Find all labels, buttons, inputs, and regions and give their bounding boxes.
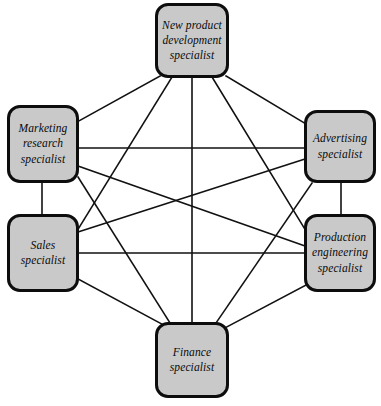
node-label: Production engineering specialist — [307, 230, 373, 276]
node-label: Advertising specialist — [307, 131, 373, 161]
edge-sales-to-finance — [78, 279, 171, 329]
node-label: Finance specialist — [158, 345, 226, 375]
node-production-engineering[interactable]: Production engineering specialist — [304, 214, 376, 292]
node-new-product-development[interactable]: New product development specialist — [155, 3, 229, 78]
edge-marketing-research-to-finance — [78, 177, 170, 323]
node-sales[interactable]: Sales specialist — [7, 214, 79, 292]
node-marketing-research[interactable]: Marketing research specialist — [7, 105, 79, 183]
edge-new-product-development-to-marketing-research — [77, 76, 160, 122]
edge-new-product-development-to-advertising — [226, 76, 306, 124]
node-label: Sales specialist — [10, 238, 76, 268]
node-finance[interactable]: Finance specialist — [155, 322, 229, 398]
node-advertising[interactable]: Advertising specialist — [304, 110, 376, 183]
edge-production-engineering-to-finance — [221, 285, 306, 330]
edge-new-product-development-to-production-engineering — [212, 77, 306, 231]
node-label: New product development specialist — [158, 18, 226, 64]
network-diagram: New product development specialist Marke… — [0, 0, 381, 406]
node-label: Marketing research specialist — [10, 121, 76, 167]
edge-new-product-development-to-sales — [77, 77, 172, 231]
